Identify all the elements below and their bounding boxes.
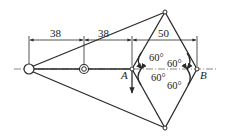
joint-bottom: [163, 126, 167, 130]
left-pivot-joint: [24, 64, 34, 74]
link-bottom-b: [165, 69, 197, 128]
angle-label-b-upper: 60°: [167, 58, 182, 69]
point-label-a: A: [120, 69, 128, 81]
angle-label-b-lower: 60°: [167, 80, 182, 91]
link-left-to-bottom: [31, 71, 163, 127]
point-label-b: B: [200, 69, 207, 81]
dimension-label-1: 38: [50, 27, 62, 39]
angle-arc-b-lower: [187, 69, 190, 85]
angle-arc-a-lower: [138, 69, 141, 85]
joint-b: [195, 67, 199, 71]
angle-label-a-lower: 60°: [151, 72, 166, 83]
dimension-label-3: 50: [158, 27, 170, 39]
joint-a: [130, 67, 134, 71]
angle-label-a-upper: 60°: [149, 52, 164, 63]
bearing-inner: [82, 67, 87, 72]
angle-arc-a-upper: [138, 53, 142, 69]
mechanism-diagram: 38 38 50 60° 60° 60° 60° A B: [0, 0, 225, 139]
joint-top: [163, 10, 167, 14]
